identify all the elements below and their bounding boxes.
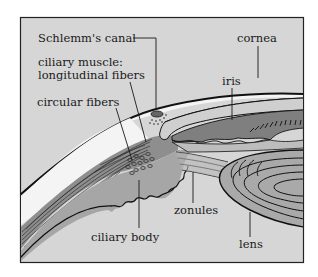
label-lens: lens (239, 237, 263, 251)
label-ciliary-muscle: ciliary muscle: (38, 55, 123, 69)
eye-ciliary-diagram: Schlemm's canal ciliary muscle: longitud… (0, 0, 318, 277)
label-schlemms-canal: Schlemm's canal (38, 31, 136, 45)
label-cornea: cornea (237, 31, 277, 45)
label-longitudinal-fibers: longitudinal fibers (38, 68, 145, 82)
label-iris: iris (222, 74, 241, 88)
label-circular-fibers: circular fibers (37, 95, 119, 109)
label-ciliary-body: ciliary body (91, 230, 160, 244)
label-zonules: zonules (174, 203, 218, 217)
schlemms-canal (151, 111, 163, 117)
